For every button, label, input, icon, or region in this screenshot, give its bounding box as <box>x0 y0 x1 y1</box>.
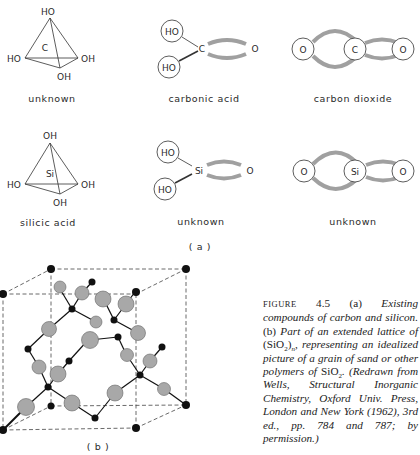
sio2-lattice-diagram: ( b ) <box>0 265 190 452</box>
carbon-tetrahedron-diagram: HO C HO OH OH unknown <box>7 7 95 104</box>
silicic-acid-diagram: OH Si HO OH OH silicic acid <box>7 131 95 228</box>
svg-text:O: O <box>399 45 406 55</box>
molecule-label: carbonic acid <box>168 93 239 104</box>
molecule-label: silicic acid <box>20 217 76 228</box>
molecule-label: unknown <box>329 216 376 227</box>
group-right: OH <box>81 54 95 64</box>
molecule-label: carbon dioxide <box>314 93 393 104</box>
svg-text:OH: OH <box>43 131 57 141</box>
figure-caption: FIGURE 4.5 (a) Existing compounds of car… <box>263 297 418 445</box>
svg-text:HO: HO <box>7 180 21 190</box>
svg-text:Si: Si <box>195 166 203 176</box>
svg-text:HO: HO <box>162 63 176 73</box>
svg-text:O: O <box>300 167 307 177</box>
svg-text:C: C <box>352 45 358 55</box>
svg-text:HO: HO <box>161 148 175 158</box>
svg-text:O: O <box>399 167 406 177</box>
figure-word: FIGURE <box>263 299 297 309</box>
svg-text:Si: Si <box>46 169 54 179</box>
figure-number: 4.5 <box>316 297 330 309</box>
silicon-acid-unknown-diagram: HO HO Si O unknown <box>154 141 254 227</box>
carbonic-acid-diagram: HO HO C O carbonic acid <box>158 20 259 104</box>
panel-b-label: ( b ) <box>87 441 109 452</box>
panel-a-label: ( a ) <box>189 241 211 252</box>
silicon-dioxide-unknown-diagram: O Si O unknown <box>293 153 414 228</box>
svg-text:OH: OH <box>53 198 67 208</box>
svg-text:OH: OH <box>81 180 95 190</box>
molecule-label: unknown <box>28 93 75 104</box>
svg-text:HO: HO <box>158 185 172 195</box>
group-top: HO <box>41 7 55 17</box>
center-atom: C <box>42 43 48 53</box>
carbon-dioxide-diagram: O C O carbon dioxide <box>292 31 414 104</box>
svg-text:Si: Si <box>351 167 359 177</box>
group-bottom: OH <box>57 72 71 82</box>
group-left: HO <box>7 54 21 64</box>
svg-text:HO: HO <box>165 27 179 37</box>
svg-text:O: O <box>246 166 253 176</box>
molecule-label: unknown <box>177 216 224 227</box>
svg-text:C: C <box>199 44 205 54</box>
svg-text:O: O <box>299 45 306 55</box>
svg-text:O: O <box>251 44 258 54</box>
